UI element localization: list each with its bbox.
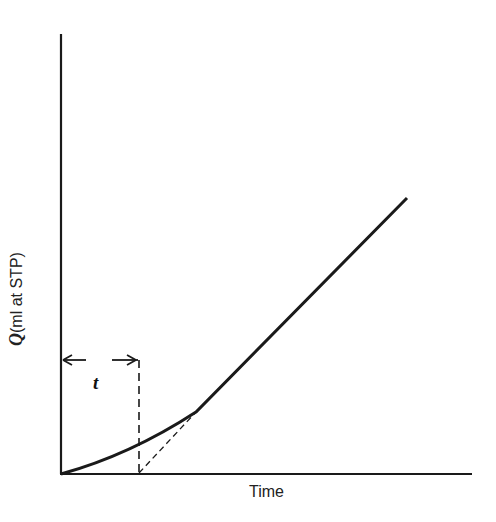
diagram-canvas xyxy=(0,0,496,522)
y-axis-units: (ml at STP) xyxy=(8,252,25,333)
q-vs-time-curve xyxy=(61,198,407,474)
x-axis-label: Time xyxy=(249,483,284,501)
y-axis-symbol: Q xyxy=(6,333,26,346)
lag-time-label: t xyxy=(93,372,98,394)
extrapolation-dashed-line xyxy=(139,412,196,473)
y-axis-label: Q(ml at STP) xyxy=(6,252,27,346)
